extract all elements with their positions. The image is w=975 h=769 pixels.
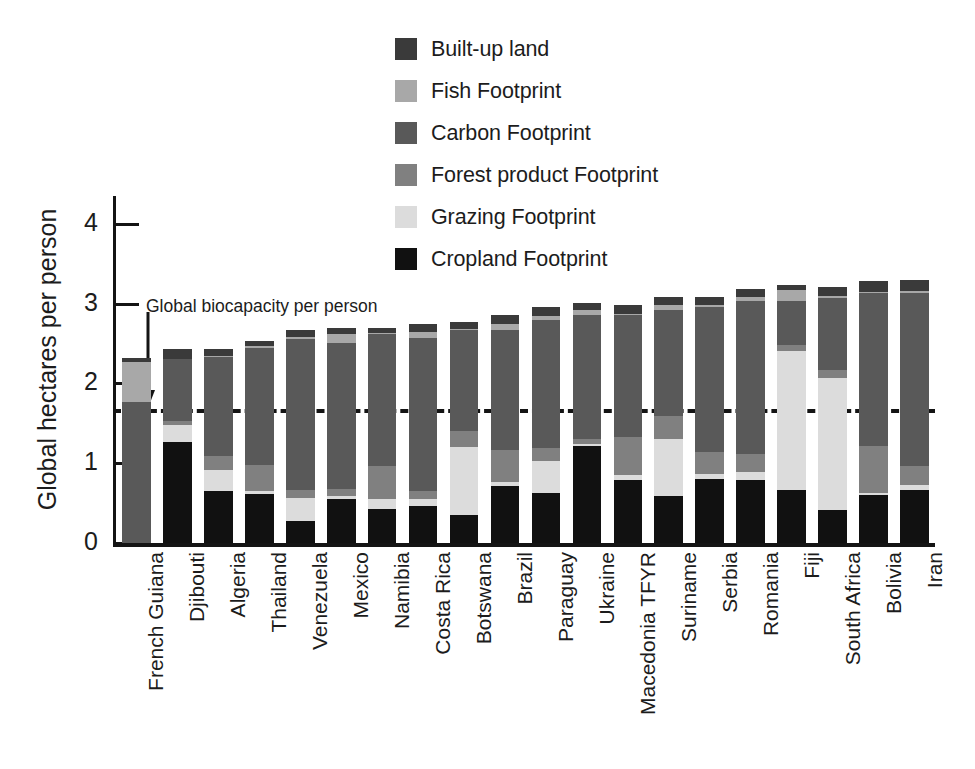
legend-item[interactable]: Fish Footprint: [395, 70, 658, 112]
bar-segment: [368, 334, 397, 466]
bar-segment: [859, 293, 888, 447]
bar-segment: [614, 437, 643, 475]
legend-item[interactable]: Carbon Footprint: [395, 112, 658, 154]
bar-group[interactable]: [122, 358, 151, 543]
bar-group[interactable]: [573, 303, 602, 543]
bar-segment: [368, 499, 397, 509]
bar-group[interactable]: [327, 328, 356, 543]
x-axis-label: Bolivia: [882, 552, 906, 614]
bar-segment: [695, 307, 724, 452]
bar-group[interactable]: [736, 289, 765, 543]
x-axis-label: Iran: [923, 552, 947, 588]
x-axis-label: French Guiana: [144, 552, 168, 691]
bar-segment: [286, 521, 315, 543]
bar-group[interactable]: [409, 324, 438, 543]
bar-segment: [900, 293, 929, 467]
y-axis-tick-label: 1: [58, 447, 98, 476]
bar-segment: [614, 315, 643, 437]
x-axis-label: Djibouti: [185, 552, 209, 622]
bar-segment: [654, 416, 683, 438]
x-axis-label: Suriname: [677, 552, 701, 642]
bar-group[interactable]: [614, 305, 643, 543]
y-axis-tick-label: 2: [58, 367, 98, 396]
bar-segment: [122, 362, 151, 402]
y-axis-tick-label: 4: [58, 208, 98, 237]
bar-segment: [245, 465, 274, 491]
bar-group[interactable]: [532, 307, 561, 543]
x-axis-line: [113, 543, 935, 547]
bar-group[interactable]: [695, 297, 724, 543]
legend-item[interactable]: Forest product Footprint: [395, 154, 658, 196]
x-axis-label: Namibia: [390, 552, 414, 629]
x-axis-label: Fiji: [800, 552, 824, 579]
stacked-bar-chart: Built-up landFish FootprintCarbon Footpr…: [0, 0, 975, 769]
legend-swatch-icon: [395, 122, 417, 144]
bar-segment: [777, 301, 806, 345]
x-axis-label: Macedonia TFYR: [636, 552, 660, 715]
bar-segment: [163, 442, 192, 543]
bar-segment: [286, 339, 315, 491]
x-axis-label: Brazil: [513, 552, 537, 605]
bar-segment: [654, 310, 683, 416]
bar-segment: [163, 425, 192, 442]
bar-segment: [695, 479, 724, 543]
bar-segment: [163, 349, 192, 359]
bar-group[interactable]: [286, 330, 315, 543]
bar-segment: [777, 490, 806, 543]
x-axis-label: Algeria: [226, 552, 250, 617]
bar-segment: [450, 330, 479, 431]
bar-segment: [532, 320, 561, 448]
bar-segment: [736, 301, 765, 454]
legend-item-label: Carbon Footprint: [431, 122, 591, 144]
bar-group[interactable]: [245, 341, 274, 543]
bar-group[interactable]: [777, 285, 806, 543]
bar-segment: [532, 493, 561, 543]
bar-segment: [450, 431, 479, 447]
legend-item-label: Built-up land: [431, 38, 549, 60]
bar-segment: [900, 466, 929, 484]
bar-segment: [450, 515, 479, 543]
x-axis-label: Costa Rica: [431, 552, 455, 655]
bar-segment: [204, 456, 233, 470]
bar-segment: [450, 322, 479, 329]
bar-group[interactable]: [818, 287, 847, 543]
bar-segment: [122, 402, 151, 543]
bar-segment: [818, 378, 847, 510]
bar-segment: [777, 351, 806, 490]
bar-segment: [818, 370, 847, 378]
legend-item-label: Fish Footprint: [431, 80, 561, 102]
bar-group[interactable]: [163, 349, 192, 543]
legend-item[interactable]: Built-up land: [395, 28, 658, 70]
bar-segment: [532, 307, 561, 317]
bar-segment: [368, 509, 397, 543]
bar-segment: [286, 330, 315, 337]
bar-segment: [654, 439, 683, 496]
bar-group[interactable]: [368, 328, 397, 543]
bar-segment: [573, 315, 602, 439]
x-axis-label: Ukraine: [595, 552, 619, 624]
bar-group[interactable]: [450, 322, 479, 543]
x-axis-label: South Africa: [841, 552, 865, 665]
bar-segment: [409, 506, 438, 543]
bar-segment: [736, 480, 765, 543]
bar-segment: [736, 472, 765, 480]
bar-group[interactable]: [654, 297, 683, 543]
y-axis-title: Global hectares per person: [33, 195, 62, 525]
bar-segment: [654, 496, 683, 543]
bar-segment: [204, 491, 233, 543]
bar-segment: [777, 290, 806, 301]
bar-segment: [736, 289, 765, 297]
legend-swatch-icon: [395, 38, 417, 60]
bar-segment: [818, 287, 847, 296]
y-axis-tick-label: 3: [58, 288, 98, 317]
bar-segment: [368, 466, 397, 500]
bar-group[interactable]: [859, 281, 888, 543]
bar-segment: [327, 489, 356, 496]
bar-group[interactable]: [900, 280, 929, 543]
legend-item-label: Forest product Footprint: [431, 164, 658, 186]
bar-group[interactable]: [491, 315, 520, 543]
bar-segment: [409, 324, 438, 332]
bar-segment: [327, 499, 356, 543]
plot-area: [116, 196, 935, 543]
bar-group[interactable]: [204, 349, 233, 543]
